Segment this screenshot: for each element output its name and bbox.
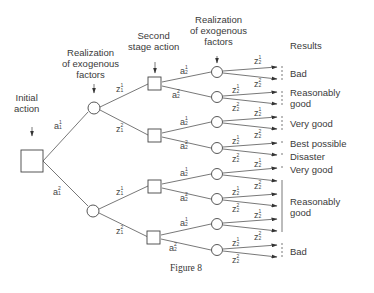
realization-z2-2: z22 xyxy=(232,204,241,214)
header-results: Results xyxy=(290,40,322,51)
decision-node-2 xyxy=(148,129,161,142)
chance-node-1 xyxy=(88,102,100,114)
action-label-a2-1: a12 xyxy=(180,218,189,228)
header-initial-action: Initial action xyxy=(14,92,39,114)
realization-z2-2: z22 xyxy=(254,181,263,191)
result-disaster: Disaster xyxy=(290,151,325,162)
result-best-possible: Best possible xyxy=(290,138,347,149)
realization-z2-2: z22 xyxy=(254,232,263,242)
chance-node-2 xyxy=(87,205,99,217)
result-very-good: Very good xyxy=(290,118,333,129)
header-realization-1: Realization of exogenous factors xyxy=(62,47,119,80)
realization-z1-1-top: z11 xyxy=(116,84,125,94)
result-reasonably-good: Reasonably good xyxy=(290,196,340,218)
result-very-good: Very good xyxy=(290,164,333,175)
realization-z2-1: z12 xyxy=(232,85,241,95)
realization-z2-2: z22 xyxy=(232,154,241,164)
realization-z2-1: z12 xyxy=(232,187,241,197)
decision-node-3 xyxy=(148,180,161,193)
realization-z1-2-top: z21 xyxy=(116,124,125,134)
realization-z2-1: z12 xyxy=(254,56,263,66)
action-label-a2-2: a22 xyxy=(180,193,189,203)
action-label-a2-1: a12 xyxy=(180,117,189,127)
action-label-a1-2: a21 xyxy=(53,187,62,197)
realization-z2-2: z22 xyxy=(232,103,241,113)
realization-z2-1: z12 xyxy=(254,108,263,118)
initial-decision-node xyxy=(21,150,43,172)
action-label-a2-2: a22 xyxy=(172,90,181,100)
result-bad: Bad xyxy=(290,68,307,79)
action-label-a2-1: a12 xyxy=(180,168,189,178)
realization-z1-2-bottom: z21 xyxy=(116,226,125,236)
decision-node-1 xyxy=(148,77,161,90)
header-realization-2: Realization of exogenous factors xyxy=(190,14,247,47)
action-label-a2-2: a22 xyxy=(169,243,178,253)
realization-z2-1: z12 xyxy=(232,238,241,248)
header-second-stage: Second stage action xyxy=(128,30,179,52)
realization-z2-1: z12 xyxy=(254,159,263,169)
realization-z2-1: z12 xyxy=(232,136,241,146)
result-reasonably-good: Reasonably good xyxy=(290,87,340,109)
realization-z1-1-bottom: z11 xyxy=(116,187,125,197)
figure-caption: Figure 8 xyxy=(170,263,202,273)
result-bad: Bad xyxy=(290,246,307,257)
realization-z2-1: z12 xyxy=(254,210,263,220)
realization-z2-2: z22 xyxy=(254,79,263,89)
realization-z2-2: z22 xyxy=(254,130,263,140)
action-label-a1-1: a11 xyxy=(54,121,63,131)
action-label-a2-1: a12 xyxy=(180,66,189,76)
action-label-a2-2: a22 xyxy=(180,141,189,151)
realization-z2-2: z22 xyxy=(232,255,241,265)
decision-node-4 xyxy=(147,231,160,244)
